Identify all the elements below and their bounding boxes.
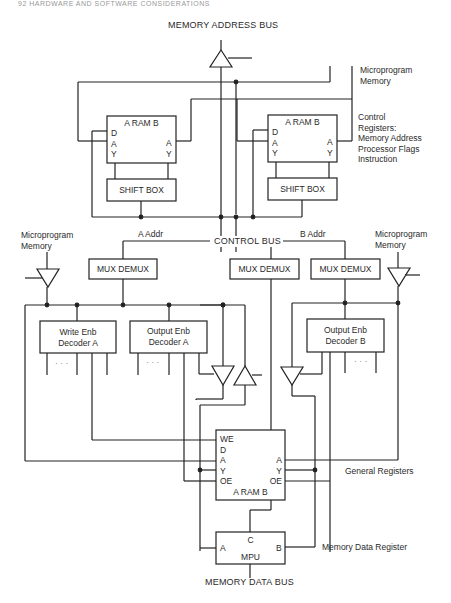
ram-right-pins-right: A Y [327,137,333,158]
ellipsis-output-b: · · · [354,356,367,367]
ellipsis-output-a: · · · [146,357,159,368]
wiring-diagram [0,0,451,603]
b-addr-label: B Addr [300,229,326,240]
control-bus-label: CONTROL BUS [212,236,283,247]
mux-demux-center: MUX DEMUX [230,264,299,275]
output-buffer-down-icon [212,366,234,385]
shift-box-left: SHIFT BOX [107,185,176,196]
ram-main-pins-left: WE D A Y OE [220,434,234,487]
ram-right-title: A RAM B [268,117,337,128]
memory-data-bus-label: MEMORY DATA BUS [205,577,294,588]
microprogram-memory-right-label: Microprogram Memory [375,229,427,250]
ram-left-title: A RAM B [107,118,176,129]
ram-right-pins-left: D A Y [272,127,278,159]
ram-left-pins-right: A Y [166,138,172,159]
mpu-title: MPU [216,552,285,563]
output-enb-decoder-a: Output Enb Decoder A [130,326,207,347]
output-enb-decoder-b: Output Enb Decoder B [307,325,384,346]
mpu-pin-c: C [216,535,285,546]
a-addr-label: A Addr [138,229,163,240]
microprogram-memory-left-label: Microprogram Memory [21,230,73,251]
mux-demux-b: MUX DEMUX [311,264,380,275]
microprogram-memory-top-label: Microprogram Memory [360,65,412,86]
right-buffer-icon [388,268,410,286]
ram-main-pins-right: A Y OE [266,455,282,487]
control-registers-label: Control Registers: Memory Address Proces… [358,112,422,165]
mux-demux-a: MUX DEMUX [89,264,157,275]
ellipsis-write-a: · · · [55,358,68,369]
ram-main-title: A RAM B [216,487,285,498]
write-enb-decoder-a: Write Enb Decoder A [40,327,116,348]
general-registers-label: General Registers [345,466,414,477]
right-output-buffer-icon [281,367,303,385]
ram-left-pins-left: D A Y [111,128,117,160]
memory-address-bus-label: MEMORY ADDRESS BUS [168,20,278,31]
memory-data-register-label: Memory Data Register [322,542,407,553]
shift-box-right: SHIFT BOX [268,184,337,195]
